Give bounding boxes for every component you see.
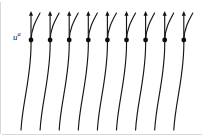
worldline-unit xyxy=(21,11,40,130)
worldline-unit xyxy=(155,11,174,130)
figure-container: ua xyxy=(0,0,204,136)
worldline-curve xyxy=(155,40,165,130)
worldline-unit xyxy=(174,11,193,130)
event-dot xyxy=(143,38,148,43)
worldline-upper-branch xyxy=(69,13,78,40)
velocity-vector-arrowhead xyxy=(29,11,33,16)
worldline-upper-branch xyxy=(165,13,174,40)
worldline-unit xyxy=(117,11,136,130)
worldline-curve xyxy=(21,40,31,130)
event-dot xyxy=(162,38,167,43)
event-dot xyxy=(86,38,91,43)
worldline-curve xyxy=(40,40,50,130)
worldline-congruence-diagram xyxy=(0,0,204,136)
worldline-upper-branch xyxy=(184,13,193,40)
worldline-curve xyxy=(97,40,107,130)
velocity-vector-arrowhead xyxy=(86,11,90,16)
worldline-curve xyxy=(174,40,184,130)
worldline-curve xyxy=(136,40,146,130)
event-dot xyxy=(48,38,53,43)
velocity-vector-arrowhead xyxy=(67,11,71,16)
velocity-vector-arrowhead xyxy=(124,11,128,16)
velocity-field-superscript: a xyxy=(18,30,21,37)
worldline-curve xyxy=(59,40,69,130)
worldline-upper-branch xyxy=(127,13,136,40)
worldline-unit xyxy=(136,11,155,130)
worldline-unit xyxy=(40,11,59,130)
velocity-field-label: ua xyxy=(13,33,21,42)
velocity-vector-arrowhead xyxy=(182,11,186,16)
event-dot xyxy=(124,38,129,43)
worldline-units xyxy=(21,11,193,130)
worldline-upper-branch xyxy=(50,13,59,40)
worldline-curve xyxy=(117,40,127,130)
worldline-curve xyxy=(78,40,88,130)
event-dot xyxy=(181,38,186,43)
velocity-vector-arrowhead xyxy=(105,11,109,16)
velocity-vector-arrowhead xyxy=(144,11,148,16)
velocity-vector-arrowhead xyxy=(48,11,52,16)
worldline-upper-branch xyxy=(88,13,97,40)
worldline-upper-branch xyxy=(31,13,40,40)
event-dot xyxy=(29,38,34,43)
worldline-upper-branch xyxy=(146,13,155,40)
worldline-unit xyxy=(97,11,116,130)
event-dot xyxy=(67,38,72,43)
velocity-vector-arrowhead xyxy=(163,11,167,16)
worldline-unit xyxy=(59,11,78,130)
event-dot xyxy=(105,38,110,43)
worldline-upper-branch xyxy=(107,13,116,40)
worldline-unit xyxy=(78,11,97,130)
